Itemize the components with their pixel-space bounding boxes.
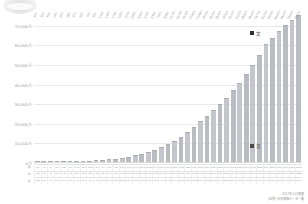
legend-label-male: 男: [256, 143, 261, 149]
table-row-header: 男: [0, 164, 32, 171]
data-table: 6278991241551962433053824755947399201142…: [34, 164, 302, 184]
bar-group: 75,000: [295, 16, 302, 163]
bar-data-label: 2,210: [117, 10, 124, 18]
legend-swatch-female: [250, 31, 254, 35]
bar: [244, 74, 249, 163]
bar-series: 1201501902403003804705907409201,1501,430…: [34, 16, 302, 163]
bar: [218, 104, 223, 163]
bar: [264, 44, 269, 163]
bar: [296, 15, 301, 163]
bar: [198, 121, 203, 163]
bar-data-label: 1,430: [104, 10, 111, 18]
table-cell: 75000: [295, 178, 302, 184]
bar-data-label: 190: [46, 11, 52, 17]
table-row-header: 計: [0, 177, 32, 184]
bar-data-label: 120: [33, 11, 39, 17]
legend-item-male: 男: [250, 143, 261, 149]
axis-baseline: [34, 162, 302, 163]
y-axis-tick-label: 50,000人: [15, 62, 32, 68]
bar: [205, 116, 210, 163]
y-axis-tick-label: 40,000人: [15, 82, 32, 88]
legend-item-female: 女: [250, 30, 261, 36]
bar: [237, 83, 242, 163]
bar: [270, 38, 275, 163]
source-note: 2017年人口調査 (出所) 社会保障データ一覧: [268, 192, 304, 202]
bar: [231, 90, 236, 163]
bar: [166, 144, 171, 163]
bar: [224, 98, 229, 163]
y-axis-tick-label: 60,000人: [15, 42, 32, 48]
bar: [179, 137, 184, 163]
y-axis: 70,000人60,000人50,000人40,000人30,000人20,00…: [0, 16, 32, 163]
bar-data-label: 3,380: [130, 10, 137, 18]
legend-swatch-male: [250, 144, 254, 148]
logo-watermark: [3, 0, 37, 14]
y-axis-tick-label: 10,000人: [15, 140, 32, 146]
bar: [172, 141, 177, 163]
bar: [290, 20, 295, 163]
bar-data-label: 300: [59, 11, 65, 17]
bar-data-label: 740: [85, 11, 91, 17]
bar: [211, 110, 216, 163]
bar-data-label: 920: [91, 11, 97, 17]
bar-data-label: 240: [52, 11, 58, 17]
table-row-headers: 男女計: [0, 164, 32, 184]
y-axis-tick-label: 70,000人: [15, 23, 32, 29]
bar: [185, 132, 190, 163]
bar: [277, 31, 282, 163]
bar-data-label: 380: [65, 11, 71, 17]
bar: [283, 25, 288, 163]
y-axis-tick-label: 30,000人: [15, 101, 32, 107]
table-row: 1201501902403003804705907409201150143017…: [34, 177, 302, 184]
bar: [192, 127, 197, 163]
source-line-2: (出所) 社会保障データ一覧: [268, 197, 304, 202]
bar-data-label: 150: [39, 11, 45, 17]
bar-data-label: 5,080: [143, 10, 150, 18]
legend-label-female: 女: [256, 30, 261, 36]
bar-data-label: 590: [78, 11, 84, 17]
plot-area: 1201501902403003804705907409201,1501,430…: [34, 16, 302, 163]
table-row: 6278991241551962433053824755947399201142…: [34, 164, 302, 171]
y-axis-tick-label: 20,000人: [15, 121, 32, 127]
chart-root: 70,000人60,000人50,000人40,000人30,000人20,00…: [0, 0, 308, 204]
bar: [159, 147, 164, 163]
table-row: 5872911161451842272853584455566918601068…: [34, 171, 302, 178]
bar-data-label: 470: [72, 11, 78, 17]
table-row-header: 女: [0, 171, 32, 178]
